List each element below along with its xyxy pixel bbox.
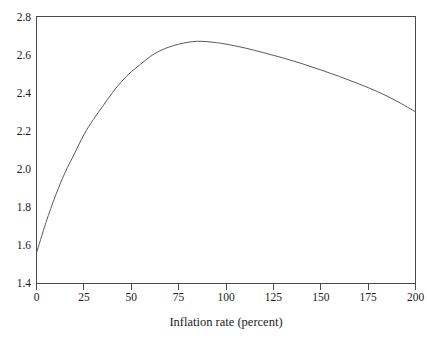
y-tick-label: 2.8: [17, 11, 32, 23]
x-tick-marks: [37, 284, 416, 290]
x-axis-tick-labels: 0 25 50 75 100 125 150 175 200: [34, 291, 425, 303]
x-axis-title: Inflation rate (percent): [169, 315, 282, 329]
y-tick-label: 1.8: [17, 201, 32, 213]
y-tick-label: 2.6: [17, 49, 32, 61]
y-axis-tick-labels: 2.8 2.6 2.4 2.2 2.0 1.8 1.6 1.4: [17, 11, 32, 290]
x-tick-label: 50: [125, 291, 137, 303]
x-tick-label: 25: [78, 291, 90, 303]
x-tick-label: 100: [217, 291, 235, 303]
line-chart-canvas: 2.8 2.6 2.4 2.2 2.0 1.8 1.6 1.4 0 25 50 …: [0, 0, 427, 339]
x-tick-label: 150: [312, 291, 330, 303]
y-tick-label: 2.4: [17, 87, 32, 99]
y-tick-label: 2.2: [17, 125, 32, 137]
x-tick-label: 75: [173, 291, 185, 303]
plot-frame: [37, 17, 416, 284]
x-tick-label: 0: [34, 291, 40, 303]
y-tick-label: 1.4: [17, 277, 32, 289]
y-tick-label: 2.0: [17, 163, 32, 175]
chart-figure: 2.8 2.6 2.4 2.2 2.0 1.8 1.6 1.4 0 25 50 …: [0, 0, 427, 339]
x-tick-label: 200: [407, 291, 425, 303]
x-tick-label: 175: [359, 291, 377, 303]
x-tick-label: 125: [265, 291, 283, 303]
data-curve-welfare: [37, 41, 416, 253]
y-tick-label: 1.6: [17, 239, 32, 251]
